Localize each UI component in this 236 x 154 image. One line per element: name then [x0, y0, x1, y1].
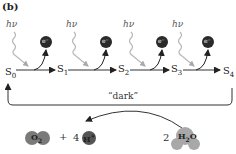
electron-label: e⁻	[102, 37, 109, 44]
state-s0: S0	[5, 66, 16, 80]
state-s3: S3	[171, 63, 182, 77]
state-s4: S4	[223, 65, 234, 79]
photon-label: hν	[172, 19, 183, 29]
photon-wave-4	[179, 32, 195, 66]
photon-label: hν	[6, 19, 17, 29]
photon-wave-3	[130, 32, 146, 66]
photon-label: hν	[66, 19, 77, 29]
electron-label: e⁻	[158, 37, 165, 44]
electron-label: e⁻	[42, 37, 49, 44]
electrons	[40, 36, 214, 48]
dark-label: “dark”	[108, 91, 138, 101]
state-s2: S2	[118, 63, 129, 77]
plus-sign: +	[59, 131, 67, 142]
panel-label: (b)	[2, 1, 18, 12]
water-oxidation-arrow	[86, 111, 182, 128]
photon-wave-2	[73, 32, 89, 66]
proton-label: H+	[83, 132, 96, 144]
water-label: H2O	[178, 131, 197, 143]
proton-coefficient: 4	[73, 132, 79, 143]
diagram-canvas	[0, 0, 236, 154]
state-s1: S1	[57, 63, 68, 77]
water-coefficient: 2	[163, 132, 169, 143]
photon-wave-1	[13, 32, 29, 66]
electron-label: e⁻	[204, 37, 211, 44]
o2-label: O2	[31, 132, 42, 144]
photon-label: hν	[123, 19, 134, 29]
